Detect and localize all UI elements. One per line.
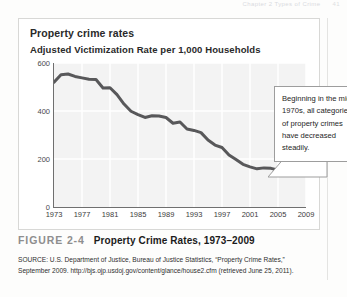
- x-tick-label: 1997: [214, 210, 231, 219]
- y-tick-label: 400: [37, 107, 50, 116]
- figure-caption: Property Crime Rates, 1973–2009: [94, 235, 255, 246]
- x-tick-label: 1989: [158, 210, 175, 219]
- x-tick-label: 1993: [186, 210, 203, 219]
- gridlines: [54, 63, 306, 207]
- page-number: 41: [333, 1, 340, 7]
- y-axis-labels: 0200400600: [30, 57, 52, 207]
- figure-caption-row: FIGURE 2-4 Property Crime Rates, 1973–20…: [18, 234, 320, 246]
- running-head: Chapter 2 Types of Crime 41: [180, 1, 340, 7]
- chart-title: Property crime rates: [30, 27, 134, 39]
- figure-source: SOURCE: U.S. Department of Justice, Bure…: [18, 255, 318, 276]
- y-tick-label: 200: [37, 155, 50, 164]
- callout-box: Beginning in the mid-1970s, all categori…: [274, 86, 347, 162]
- chart-svg: [54, 63, 306, 207]
- x-tick-label: 1977: [74, 210, 91, 219]
- x-tick-label: 2009: [298, 210, 315, 219]
- plot-wrapper: 0200400600 19731977198119851989199319972…: [30, 57, 312, 229]
- x-tick-label: 1973: [46, 210, 63, 219]
- x-tick-label: 1981: [102, 210, 119, 219]
- x-axis-line: [53, 207, 306, 208]
- plot-area: [54, 63, 306, 207]
- chart-subtitle: Adjusted Victimization Rate per 1,000 Ho…: [30, 44, 261, 55]
- figure-number: FIGURE 2-4: [18, 234, 85, 246]
- y-tick-label: 600: [37, 59, 50, 68]
- x-tick-label: 2001: [242, 210, 259, 219]
- x-axis-labels: 1973197719811985198919931997200120052009: [54, 210, 306, 224]
- running-head-text: Chapter 2 Types of Crime: [243, 1, 321, 7]
- x-tick-label: 1985: [130, 210, 147, 219]
- book-page: Chapter 2 Types of Crime 41 Property cri…: [0, 0, 347, 297]
- x-tick-label: 2005: [270, 210, 287, 219]
- figure-frame: Property crime rates Adjusted Victimizat…: [18, 18, 320, 230]
